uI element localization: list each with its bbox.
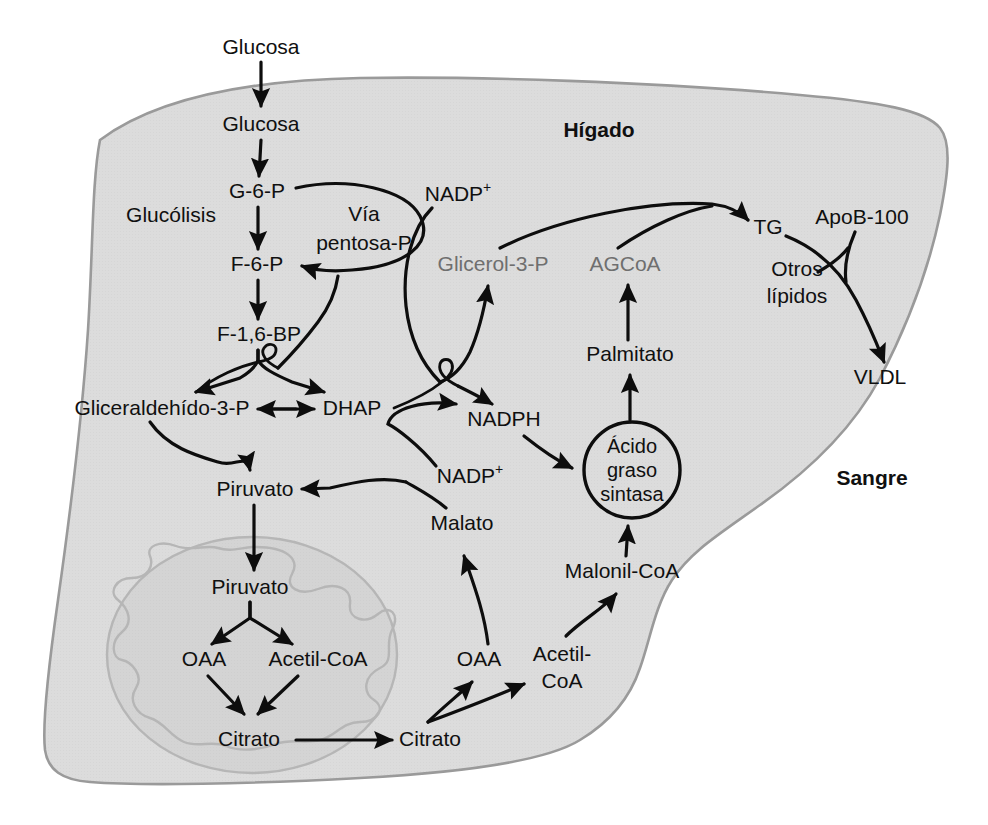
label-via-pentosa-p-line2: pentosa-P [316,231,412,254]
label-glucosa-sangre: Glucosa [222,35,299,58]
label-higado: Hígado [563,118,634,141]
label-oaa-mitocondria: OAA [182,647,226,670]
label-fas-line2: graso [607,459,657,481]
label-f6p: F-6-P [231,252,284,275]
label-glucosa-higado: Glucosa [222,112,299,135]
label-acetil-coa-citosol-line2: CoA [542,669,583,692]
label-nadp-plus-top: NADP+ [425,179,492,205]
label-apob-100: ApoB-100 [815,205,908,228]
label-malonil-coa: Malonil-CoA [565,559,679,582]
label-palmitato: Palmitato [586,342,674,365]
label-dhap: DHAP [323,396,381,419]
label-f16bp: F-1,6-BP [217,322,301,345]
label-citrato-mitocondria: Citrato [218,727,280,750]
label-oaa-citosol: OAA [457,647,501,670]
label-malato: Malato [430,511,493,534]
label-acetil-coa-citosol-line1: Acetil- [533,642,591,665]
label-tg: TG [753,215,782,238]
arrow-malonilcoa-to-fas [626,526,628,556]
label-fas-line1: Ácido [607,435,657,457]
label-agcoa: AGCoA [589,252,660,275]
label-piruvato-citosol: Piruvato [216,477,293,500]
label-piruvato-mitocondria: Piruvato [211,575,288,598]
label-otros-lipidos-line2: lípidos [767,284,828,307]
label-nadph: NADPH [467,407,541,430]
label-glicerol-3-p: Glicerol-3-P [438,252,549,275]
pathway-figure: Glucosa Glucosa G-6-P F-6-P F-1,6-BP Gli… [0,0,988,825]
diagram-canvas: Glucosa Glucosa G-6-P F-6-P F-1,6-BP Gli… [0,0,988,825]
label-acetil-coa-mitocondria: Acetil-CoA [268,647,367,670]
label-via-pentosa-p-line1: Vía [348,202,380,225]
label-vldl: VLDL [854,365,907,388]
label-fas-line3: sintasa [600,483,664,505]
label-citrato-citosol: Citrato [399,727,461,750]
label-sangre: Sangre [836,466,907,489]
label-nadp-plus-mid: NADP+ [437,461,504,487]
arrow-glucosa-to-g6p [259,140,261,176]
label-gliceraldehido-3-p: Gliceraldehído-3-P [74,396,249,419]
label-otros-lipidos-line1: Otros [771,257,822,280]
label-g6p: G-6-P [229,179,285,202]
label-glucolisis: Glucólisis [126,203,216,226]
